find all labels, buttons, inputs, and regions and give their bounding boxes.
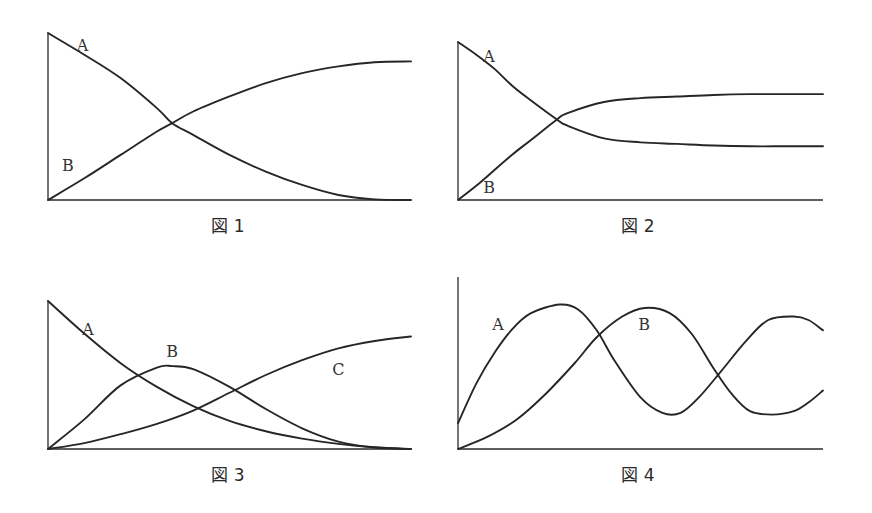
curve-label-a: A xyxy=(76,36,89,55)
series-line-b xyxy=(48,61,411,200)
curve-label-c: C xyxy=(332,360,344,379)
chart-3: ABC図 3 xyxy=(48,301,411,485)
figure-caption: 図 3 xyxy=(211,465,244,485)
curve-label-b: B xyxy=(483,178,495,197)
series-line-a xyxy=(48,301,411,449)
series-line-c xyxy=(48,337,411,449)
figure-grid: AB図 1 AB図 2 ABC図 3 AB図 4 xyxy=(0,0,872,513)
curve-label-a: A xyxy=(81,320,94,339)
chart-4: AB図 4 xyxy=(458,277,823,485)
figure-caption: 図 4 xyxy=(621,465,654,485)
series-line-b xyxy=(48,366,411,449)
figure-caption: 図 2 xyxy=(621,216,654,236)
curve-label-b: B xyxy=(638,315,650,334)
chart-1: AB図 1 xyxy=(48,33,411,236)
curve-label-b: B xyxy=(166,342,178,361)
figure-caption: 図 1 xyxy=(211,216,244,236)
curve-label-a: A xyxy=(491,315,504,334)
series-line-a xyxy=(48,33,411,200)
curve-label-a: A xyxy=(482,47,495,66)
curve-label-b: B xyxy=(62,156,74,175)
chart-2: AB図 2 xyxy=(458,42,823,236)
